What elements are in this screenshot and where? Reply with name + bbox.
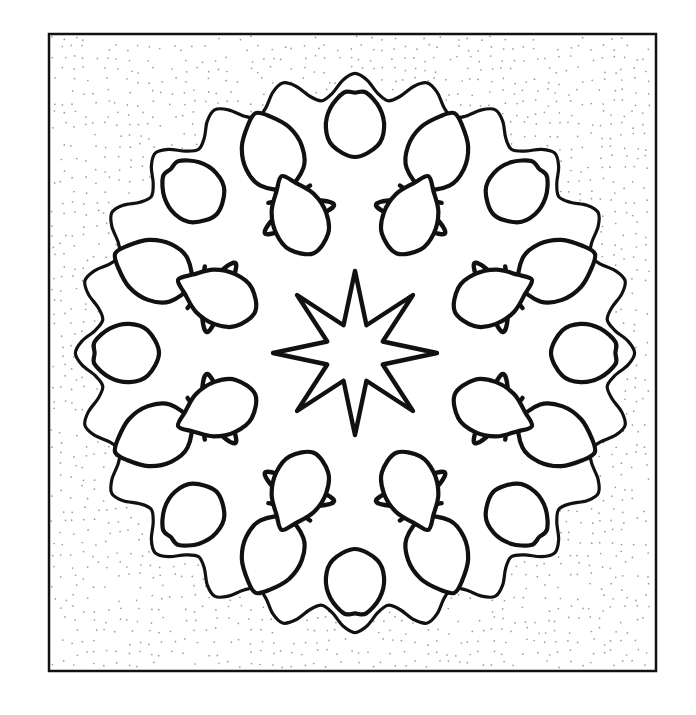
leaf bbox=[326, 91, 384, 157]
center-star bbox=[273, 271, 437, 435]
leaf bbox=[486, 484, 548, 546]
leaf bbox=[162, 160, 224, 222]
mandala-drawing bbox=[0, 0, 696, 715]
leaf bbox=[326, 549, 384, 615]
illustration-canvas bbox=[0, 0, 696, 715]
leaf bbox=[162, 484, 224, 546]
leaf bbox=[486, 160, 548, 222]
leaf bbox=[551, 324, 617, 382]
leaf bbox=[93, 324, 159, 382]
